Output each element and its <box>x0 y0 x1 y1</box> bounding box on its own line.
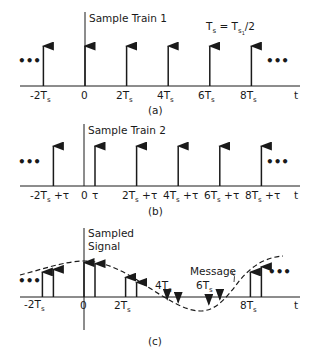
sampling-diagram: Sample Train 1 Ts = Ts1/2 ••• ••• -2Ts 0… <box>0 0 314 353</box>
panel-b: Sample Train 2 ••• ••• -2Ts +τ 0 τ 2Ts +… <box>18 124 300 217</box>
ellipsis-left: ••• <box>18 54 41 68</box>
panel-title-line1: Sampled <box>88 227 134 239</box>
tick-label: 6Ts <box>196 279 213 294</box>
tick-label: -2Ts <box>30 89 51 104</box>
tick-label: 8Ts <box>240 89 257 104</box>
axis-label-t: t <box>294 299 298 311</box>
tick-label: 4Ts +τ <box>163 189 198 204</box>
tick-labels: -2Ts +τ 0 τ 2Ts +τ 4Ts +τ 6Ts +τ 8Ts +τ … <box>30 189 298 204</box>
ellipsis-left: ••• <box>18 155 41 169</box>
tick-label: 6Ts <box>198 89 215 104</box>
tick-label: 6Ts +τ <box>204 189 239 204</box>
tick-label: -2Ts <box>24 298 45 313</box>
tick-label: 2Ts <box>114 299 131 314</box>
tick-label: 2Ts <box>116 89 133 104</box>
tick-labels: -2Ts 0 2Ts 4Ts 6Ts 8Ts t <box>30 89 298 104</box>
tick-label: τ <box>92 189 98 201</box>
tick-label: 0 <box>81 89 88 101</box>
impulse-group <box>43 46 251 86</box>
tick-label: -2Ts +τ <box>30 189 69 204</box>
ellipsis-left: ••• <box>18 274 41 288</box>
tick-label: 8Ts <box>240 299 257 314</box>
tick-label: 0 <box>80 299 87 311</box>
message-label: Message <box>190 265 236 277</box>
tick-label: 2Ts +τ <box>122 189 157 204</box>
ellipsis-right: ••• <box>266 155 289 169</box>
period-annotation: Ts = Ts1/2 <box>205 20 255 36</box>
tick-label: 0 <box>81 189 88 201</box>
panel-title-line2: Signal <box>88 240 120 252</box>
tick-label: 8Ts +τ <box>245 189 280 204</box>
panel-c: Sampled Signal Message ••• ••• -2Ts 0 2T… <box>18 227 300 347</box>
tick-label: 4Ts <box>157 89 174 104</box>
panel-caption: (b) <box>148 205 163 217</box>
ellipsis-right: ••• <box>266 54 289 68</box>
panel-title: Sample Train 1 <box>89 12 167 24</box>
ellipsis-right: ••• <box>268 265 291 279</box>
axis-label-t: t <box>294 89 298 101</box>
tick-label: 4Ts <box>155 279 172 294</box>
panel-caption: (c) <box>148 335 162 347</box>
panel-title: Sample Train 2 <box>88 124 166 136</box>
axis-label-t: t <box>294 189 298 201</box>
impulse-group <box>53 146 261 186</box>
panel-a: Sample Train 1 Ts = Ts1/2 ••• ••• -2Ts 0… <box>18 12 300 116</box>
panel-caption: (a) <box>148 104 163 116</box>
